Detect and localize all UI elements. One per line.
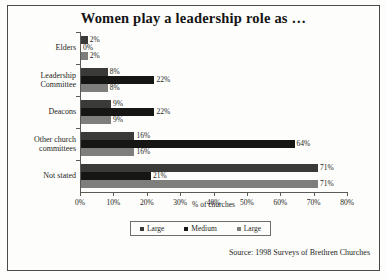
bar bbox=[81, 84, 108, 92]
bar bbox=[81, 116, 111, 124]
bar bbox=[81, 52, 88, 60]
category-label: Leadership Committee bbox=[2, 71, 76, 90]
y-tick-mark bbox=[76, 32, 80, 33]
bar bbox=[81, 148, 134, 156]
x-tick-mark bbox=[214, 192, 215, 196]
legend-swatch-icon bbox=[184, 227, 188, 231]
category-label: Not stated bbox=[2, 171, 76, 181]
bar-value-label: 22% bbox=[156, 107, 170, 116]
x-tick-mark bbox=[80, 192, 81, 196]
bar bbox=[81, 140, 295, 148]
x-tick-mark bbox=[314, 192, 315, 196]
x-tick-mark bbox=[347, 192, 348, 196]
bar-value-label: 8% bbox=[110, 83, 120, 92]
legend-entry-label: Large bbox=[147, 224, 164, 233]
legend-swatch-icon bbox=[237, 227, 241, 231]
legend-entry[interactable]: Large bbox=[140, 224, 164, 233]
x-tick-mark bbox=[180, 192, 181, 196]
bar-value-label: 16% bbox=[136, 131, 150, 140]
y-tick-mark bbox=[76, 160, 80, 161]
legend-entry[interactable]: Large bbox=[237, 224, 261, 233]
bar-value-label: 64% bbox=[297, 139, 311, 148]
legend-entry[interactable]: Medium bbox=[184, 224, 216, 233]
x-axis-title: % of churches bbox=[80, 200, 347, 209]
bar bbox=[81, 68, 108, 76]
bar-value-label: 9% bbox=[113, 99, 123, 108]
x-tick-mark bbox=[147, 192, 148, 196]
legend-swatch-icon bbox=[140, 227, 144, 231]
y-tick-mark bbox=[76, 64, 80, 65]
y-tick-mark bbox=[76, 96, 80, 97]
plot-area: 0%10%20%30%40%50%60%70%80% 2%0%2%8%22%8%… bbox=[80, 32, 347, 192]
x-tick-mark bbox=[280, 192, 281, 196]
bar bbox=[81, 164, 318, 172]
bar bbox=[81, 100, 111, 108]
bar bbox=[81, 180, 318, 188]
bar-value-label: 21% bbox=[153, 171, 167, 180]
y-tick-mark bbox=[76, 128, 80, 129]
legend-entry-label: Large bbox=[244, 224, 261, 233]
bar-value-label: 22% bbox=[156, 75, 170, 84]
x-tick-mark bbox=[247, 192, 248, 196]
bar-value-label: 8% bbox=[110, 67, 120, 76]
legend-entry-label: Medium bbox=[191, 224, 216, 233]
x-tick-mark bbox=[113, 192, 114, 196]
bar-value-label: 71% bbox=[320, 163, 334, 172]
chart-title: Women play a leadership role as … bbox=[7, 10, 380, 27]
bar bbox=[81, 132, 134, 140]
category-label: Other church committees bbox=[2, 135, 76, 154]
chart-figure: Women play a leadership role as … 0%10%2… bbox=[0, 0, 387, 279]
bar-value-label: 2% bbox=[90, 51, 100, 60]
bar-value-label: 16% bbox=[136, 147, 150, 156]
bar-value-label: 9% bbox=[113, 115, 123, 124]
category-label: Elders bbox=[2, 43, 76, 53]
category-label: Deacons bbox=[2, 107, 76, 117]
bar bbox=[81, 172, 151, 180]
bar-value-label: 71% bbox=[320, 179, 334, 188]
chart-legend: LargeMediumLarge bbox=[130, 221, 271, 236]
source-note: Source: 1998 Surveys of Brethren Churche… bbox=[229, 248, 370, 257]
